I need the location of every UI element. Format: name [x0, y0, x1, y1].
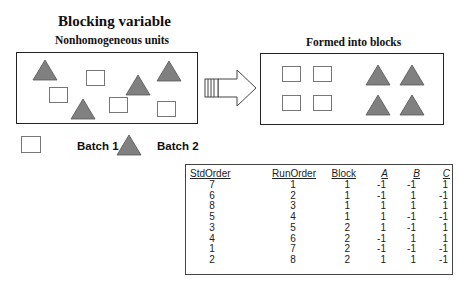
batch2-triangle-icon: [365, 64, 391, 86]
nonhomogeneous-units-label: Nonhomogeneous units: [55, 34, 169, 46]
table-row: 28211-1: [190, 255, 450, 266]
table-cell-block: 2: [316, 223, 356, 234]
table-cell-runorder: 5: [252, 223, 316, 234]
batch1-square-icon: [282, 95, 301, 111]
batch2-triangle-icon: [365, 94, 391, 116]
batch1-square-icon: [109, 97, 128, 113]
right-arrow-icon: [204, 68, 258, 108]
formed-into-blocks-label: Formed into blocks: [306, 36, 401, 48]
header-block: Block: [316, 168, 356, 180]
batch2-triangle-icon: [125, 74, 151, 96]
table-cell-stdorder: 8: [190, 201, 252, 212]
batch2-triangle-icon: [399, 94, 425, 116]
table-cell-block: 1: [316, 201, 356, 212]
formed-into-blocks-box: [260, 53, 444, 125]
legend-batch2-label: Batch 2: [157, 140, 199, 152]
batch1-square-icon: [313, 66, 332, 82]
table-cell-block: 2: [316, 255, 356, 266]
table-cell-stdorder: 2: [190, 255, 252, 266]
batch1-square-icon: [86, 70, 105, 86]
table-cell-a: 1: [356, 223, 388, 234]
table-cell-stdorder: 1: [190, 244, 252, 255]
legend-batch2-triangle-icon: [116, 134, 142, 156]
table-cell-stdorder: 4: [190, 234, 252, 245]
batch2-triangle-icon: [156, 60, 182, 82]
table-cell-stdorder: 6: [190, 191, 252, 202]
table-cell-block: 2: [316, 244, 356, 255]
table-cell-runorder: 1: [252, 180, 316, 191]
batch1-square-icon: [49, 87, 68, 103]
table-cell-a: 1: [356, 255, 388, 266]
table-row: 3521-11: [190, 223, 450, 234]
table-cell-stdorder: 7: [190, 180, 252, 191]
table-cell-runorder: 7: [252, 244, 316, 255]
table-cell-block: 2: [316, 234, 356, 245]
diagram-title: Blocking variable: [58, 13, 171, 30]
batch1-square-icon: [282, 66, 301, 82]
table-cell-block: 1: [316, 180, 356, 191]
batch2-triangle-icon: [70, 98, 96, 120]
table-cell-runorder: 4: [252, 212, 316, 223]
design-table-box: StdOrder RunOrder Block A B C 711-1-1162…: [185, 164, 453, 275]
table-cell-runorder: 6: [252, 234, 316, 245]
header-stdorder: StdOrder: [190, 168, 252, 180]
batch2-triangle-icon: [32, 59, 58, 81]
table-cell-c: 1: [420, 223, 450, 234]
legend-batch1-square-icon: [21, 136, 41, 153]
table-cell-b: 1: [388, 255, 420, 266]
batch1-square-icon: [313, 95, 332, 111]
table-cell-block: 1: [316, 191, 356, 202]
batch1-square-icon: [157, 101, 176, 117]
table-cell-runorder: 2: [252, 191, 316, 202]
table-cell-block: 1: [316, 212, 356, 223]
table-cell-runorder: 3: [252, 201, 316, 212]
table-cell-c: -1: [420, 255, 450, 266]
table-cell-stdorder: 5: [190, 212, 252, 223]
table-cell-b: -1: [388, 223, 420, 234]
legend-batch1-label: Batch 1: [77, 140, 119, 152]
table-cell-stdorder: 3: [190, 223, 252, 234]
design-table: StdOrder RunOrder Block A B C 711-1-1162…: [190, 168, 450, 266]
batch2-triangle-icon: [399, 64, 425, 86]
table-cell-runorder: 8: [252, 255, 316, 266]
header-runorder: RunOrder: [252, 168, 316, 180]
nonhomogeneous-units-box: [16, 52, 198, 124]
